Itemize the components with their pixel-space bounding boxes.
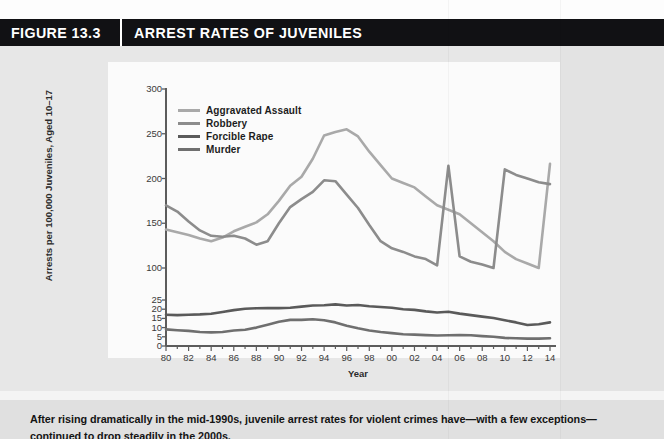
figure-header-bar: FIGURE 13.3 ARREST RATES OF JUVENILES [0,19,664,46]
x-tick-label: 08 [470,352,494,363]
x-tick-label: 14 [538,352,562,363]
x-tick-label: 96 [335,352,359,363]
x-tick-label: 90 [267,352,291,363]
legend-item-robbery[interactable]: Robbery [178,117,301,130]
x-tick-label: 98 [357,352,381,363]
scan-artifact-1 [448,0,449,439]
legend-item-aggravated-assault[interactable]: Aggravated Assault [178,104,301,117]
x-tick-label: 86 [222,352,246,363]
y-tick-label: 300 [126,84,162,93]
legend-item-forcible-rape[interactable]: Forcible Rape [178,130,301,143]
body-right-shade [560,46,664,391]
x-tick-label: 82 [177,352,201,363]
legend-color-swatch [178,148,200,151]
figure-page: FIGURE 13.3 ARREST RATES OF JUVENILES 10… [0,0,664,439]
y-tick-label: 10 [126,323,162,332]
y-tick-label: 0 [126,341,162,350]
x-tick-label: 06 [448,352,472,363]
y-tick-label: 100 [126,263,162,272]
x-tick-label: 04 [425,352,449,363]
legend-label: Aggravated Assault [206,105,301,116]
x-axis-tick-labels: 808284868890929496980002040608101214 [0,352,664,366]
y-tick-label: 150 [126,218,162,227]
legend-label: Robbery [206,118,247,129]
x-tick-label: 92 [290,352,314,363]
y-tick-label: 20 [126,304,162,313]
figure-number: FIGURE 13.3 [0,24,101,42]
chart-panel [108,62,560,358]
x-tick-label: 84 [199,352,223,363]
y-tick-label: 250 [126,129,162,138]
caption-line-2: continued to drop steadily in the 2000s. [30,430,231,439]
x-tick-label: 00 [380,352,404,363]
scan-artifact-2 [560,0,561,439]
chart-legend: Aggravated AssaultRobberyForcible RapeMu… [178,102,305,159]
x-axis-title: Year [166,368,550,379]
y-tick-label: 200 [126,174,162,183]
x-tick-label: 94 [312,352,336,363]
figure-caption: After rising dramatically in the mid-199… [30,411,648,439]
y-tick-label: 5 [126,332,162,341]
x-tick-label: 80 [154,352,178,363]
legend-color-swatch [178,122,200,125]
caption-top-edge [0,391,664,400]
legend-color-swatch [178,135,200,138]
y-tick-label: 15 [126,313,162,322]
x-tick-label: 10 [493,352,517,363]
x-tick-label: 88 [244,352,268,363]
y-tick-label: 25 [126,295,162,304]
page-top-margin [0,0,664,19]
x-tick-label: 02 [402,352,426,363]
x-tick-label: 12 [515,352,539,363]
legend-item-murder[interactable]: Murder [178,143,301,156]
legend-color-swatch [178,109,200,112]
caption-strip: After rising dramatically in the mid-199… [0,391,664,439]
caption-line-1: After rising dramatically in the mid-199… [30,413,597,425]
legend-label: Forcible Rape [206,131,273,142]
figure-title: ARREST RATES OF JUVENILES [122,24,362,42]
legend-label: Murder [206,144,241,155]
